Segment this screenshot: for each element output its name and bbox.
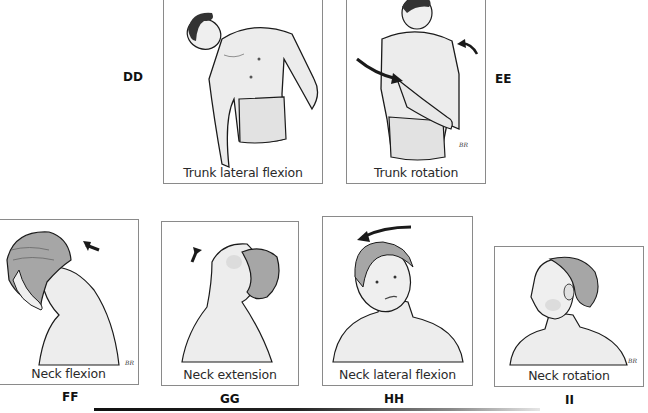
neck-rotation-illustration: BR xyxy=(495,247,645,388)
bottom-rule-divider xyxy=(94,408,540,411)
panel-neck-lateral-flexion: Neck lateral flexion xyxy=(322,216,473,386)
panel-neck-rotation: BR Neck rotation xyxy=(494,246,644,387)
panel-label-ii: II xyxy=(565,393,574,407)
panel-label-hh: HH xyxy=(384,392,404,406)
trunk-lateral-flexion-illustration xyxy=(164,0,324,185)
neck-flexion-illustration: BR xyxy=(0,220,140,386)
panel-label-gg: GG xyxy=(220,392,240,406)
neck-lateral-flexion-illustration xyxy=(323,217,474,387)
panel-caption: Neck rotation xyxy=(495,368,643,383)
trunk-rotation-illustration: BR xyxy=(347,0,487,185)
panel-label-ff: FF xyxy=(62,390,78,404)
artist-signature: BR xyxy=(458,141,468,148)
panel-caption: Neck flexion xyxy=(0,366,138,381)
panel-label-dd: DD xyxy=(123,70,143,84)
panel-neck-extension: Neck extension xyxy=(161,221,299,386)
panel-caption: Neck lateral flexion xyxy=(323,367,472,382)
panel-caption: Neck extension xyxy=(162,367,298,382)
panel-trunk-lateral-flexion: Trunk lateral flexion xyxy=(163,0,323,184)
artist-signature: BR xyxy=(124,359,134,366)
artist-signature: BR xyxy=(627,357,637,364)
panel-trunk-rotation: BR Trunk rotation xyxy=(346,0,486,184)
panel-neck-flexion: BR Neck flexion xyxy=(0,219,139,385)
panel-caption: Trunk lateral flexion xyxy=(164,165,322,180)
neck-extension-illustration xyxy=(162,222,300,387)
panel-label-ee: EE xyxy=(495,72,511,86)
panel-caption: Trunk rotation xyxy=(347,165,485,180)
